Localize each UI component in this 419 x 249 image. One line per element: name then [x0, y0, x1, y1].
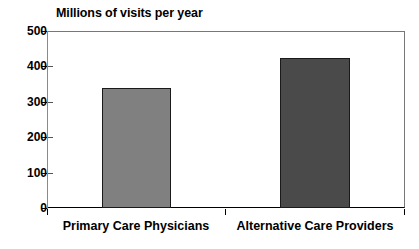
- x-tick-mark-left: [47, 209, 48, 215]
- y-tick-mark-200: [41, 137, 47, 138]
- plot-area: [47, 31, 405, 208]
- y-tick-mark-300: [41, 102, 47, 103]
- y-tick-mark-400: [41, 66, 47, 67]
- x-tick-mark-right: [404, 209, 405, 215]
- x-tick-mark-center: [225, 209, 226, 215]
- y-tick-inner-400: [48, 66, 53, 67]
- chart-title: Millions of visits per year: [56, 6, 203, 20]
- x-axis-label-2: Alternative Care Providers: [225, 219, 405, 233]
- bar-chart: Millions of visits per year 500 400 300 …: [0, 0, 419, 249]
- y-tick-inner-100: [48, 173, 53, 174]
- y-tick-mark-500: [41, 31, 47, 32]
- bar-alternative-care-providers: [280, 58, 350, 208]
- y-tick-inner-200: [48, 137, 53, 138]
- y-tick-mark-100: [41, 173, 47, 174]
- y-tick-inner-300: [48, 102, 53, 103]
- x-axis-label-1: Primary Care Physicians: [47, 219, 225, 233]
- y-axis-line: [47, 31, 48, 209]
- y-axis: 500 400 300 200 100 0: [0, 0, 47, 249]
- bar-primary-care-physicians: [102, 88, 171, 208]
